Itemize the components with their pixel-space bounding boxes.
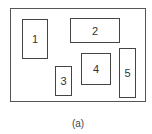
block-label: 4 — [93, 63, 99, 75]
block-5: 5 — [119, 48, 136, 98]
block-1: 1 — [22, 19, 48, 59]
block-label: 2 — [92, 25, 98, 37]
block-2: 2 — [70, 18, 120, 43]
block-label: 5 — [124, 67, 130, 79]
block-label: 3 — [60, 75, 66, 87]
figure-caption: (a) — [0, 118, 152, 129]
block-3: 3 — [55, 66, 72, 96]
block-4: 4 — [81, 53, 111, 85]
block-label: 1 — [32, 33, 38, 45]
